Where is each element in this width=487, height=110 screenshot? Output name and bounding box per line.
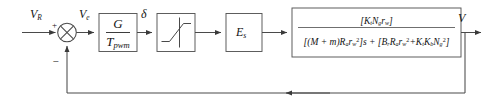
block-pwm-gain-target[interactable]: [99, 14, 137, 52]
block-plant-target[interactable]: [292, 8, 461, 57]
label-duty-cycle: δ: [141, 8, 147, 20]
summing-minus-sign: −: [53, 56, 59, 67]
block-supply-voltage-target[interactable]: [226, 14, 262, 52]
block-saturation-target[interactable]: [157, 14, 195, 52]
summing-junction-target[interactable]: [57, 23, 77, 43]
label-error-signal: Ve: [79, 8, 90, 21]
block-diagram-canvas: VR + − Ve G Tpwm δ Es [KtNgrw] [(M + m)R…: [0, 0, 487, 110]
summing-plus-sign: +: [52, 21, 57, 30]
label-reference-input: VR: [30, 8, 42, 21]
